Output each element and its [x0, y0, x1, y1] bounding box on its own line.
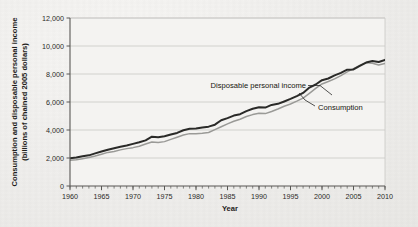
x-axis-tick-labels: 1960196519701975198019851990199520002005… [62, 192, 393, 201]
y-tick-label: 6,000 [46, 98, 64, 107]
x-tick-label: 1970 [125, 192, 141, 201]
x-tick-label: 1990 [251, 192, 267, 201]
y-tick-label: 0 [60, 182, 64, 191]
x-tick-label: 1995 [283, 192, 299, 201]
y-tick-label: 8,000 [46, 70, 64, 79]
x-tick-label: 2010 [377, 192, 393, 201]
x-axis-title: Year [222, 204, 238, 213]
y-axis-tick-labels: 02,0004,0006,0008,00010,00012,000 [42, 14, 64, 191]
chart-figure: 02,0004,0006,0008,00010,00012,000 196019… [0, 0, 418, 227]
x-tick-label: 1985 [220, 192, 236, 201]
x-tick-label: 1975 [157, 192, 173, 201]
y-tick-label: 12,000 [42, 14, 64, 23]
annotation-consumption: Consumption [318, 103, 363, 112]
x-axis-major-ticks [70, 186, 385, 190]
y-tick-label: 4,000 [46, 126, 64, 135]
annotation-disposable-personal-income: Disposable personal income [211, 81, 306, 90]
x-tick-label: 2000 [314, 192, 330, 201]
chart-svg: 02,0004,0006,0008,00010,00012,000 196019… [0, 0, 418, 227]
y-tick-label: 10,000 [42, 42, 64, 51]
x-tick-label: 1965 [94, 192, 110, 201]
x-tick-label: 1980 [188, 192, 204, 201]
y-tick-label: 2,000 [46, 154, 64, 163]
y-axis-title-line2: (billions of chained 2005 dollars) [20, 43, 29, 161]
x-tick-label: 1960 [62, 192, 78, 201]
y-axis-title-line1: Consumption and disposable personal inco… [10, 18, 19, 187]
x-tick-label: 2005 [346, 192, 362, 201]
